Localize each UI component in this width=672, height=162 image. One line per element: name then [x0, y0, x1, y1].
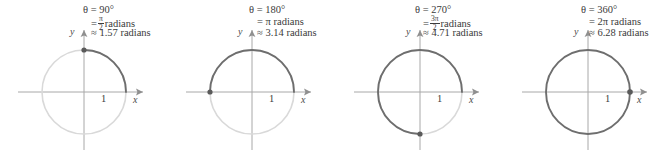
radians-exact-value: π radians [266, 16, 304, 27]
y-axis-label: y [70, 26, 74, 37]
y-axis-label: y [238, 26, 242, 37]
terminal-point-dot [627, 89, 633, 95]
angle-arc [84, 50, 126, 92]
radius-length-label: 1 [101, 93, 106, 104]
x-axis-label: x [301, 94, 305, 105]
fraction-denominator: 2 [430, 24, 440, 33]
three-pi-over-two-fraction: 3π2 [430, 15, 440, 33]
radians-exact-value: 2π radians [598, 16, 642, 27]
theta-degrees-label: θ = 360° [581, 4, 672, 16]
x-axis-label: x [637, 94, 641, 105]
radians-approx-label: ≈ 6.28 radians [581, 27, 672, 39]
x-axis-label: x [469, 94, 473, 105]
radius-length-label: 1 [605, 93, 610, 104]
terminal-point-dot [81, 47, 86, 52]
radians-exact-label: = 2π radians [581, 16, 672, 28]
radius-length-label: 1 [269, 93, 274, 104]
unit-circle-figure: θ = 90° =π2radians ≈ 1.57 radians x y 1 … [0, 0, 672, 162]
y-axis-label: y [406, 26, 410, 37]
panel-90-degrees: θ = 90° =π2radians ≈ 1.57 radians x y 1 [0, 0, 168, 162]
fraction-denominator: 2 [98, 24, 104, 33]
pi-over-two-fraction: π2 [98, 15, 104, 33]
terminal-point-dot [417, 131, 422, 136]
panel-270-degrees: θ = 270° =3π2radians ≈ 4.71 radians x y … [336, 0, 504, 162]
panel-180-degrees: θ = 180° = π radians ≈ 3.14 radians x y … [168, 0, 336, 162]
panel-360-label-group: θ = 360° = 2π radians ≈ 6.28 radians [504, 4, 672, 39]
equals-sign: = [589, 16, 595, 28]
terminal-point-dot [207, 89, 212, 94]
equals-sign: = [257, 16, 263, 28]
x-axis-label: x [133, 94, 137, 105]
y-axis-label: y [574, 26, 578, 37]
panel-360-degrees: θ = 360° = 2π radians ≈ 6.28 radians x y… [504, 0, 672, 162]
radius-length-label: 1 [437, 93, 442, 104]
